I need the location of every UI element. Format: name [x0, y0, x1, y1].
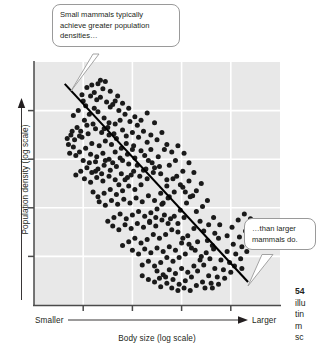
- y-axis-title: Population density (log scale): [21, 105, 30, 255]
- callout-larger-mammals: …than larger mammals do.: [244, 218, 316, 250]
- caption-number: 54: [295, 286, 325, 298]
- callout-top-line-1: Small mammals typically: [60, 10, 172, 21]
- x-axis-direction-arrow: [68, 316, 248, 323]
- caption-line-3: m: [295, 321, 325, 333]
- scatter-plot-canvas: [0, 0, 325, 347]
- callout-small-mammals: Small mammals typically achieve greater …: [52, 4, 180, 47]
- figure-root: Population density (log scale) Body size…: [0, 0, 325, 347]
- caption-line-2: tin: [295, 309, 325, 321]
- x-axis-high-label: Larger: [252, 316, 276, 325]
- figure-caption-partial: 54 illu tin m sc: [295, 286, 325, 344]
- caption-line-4: sc: [295, 332, 325, 344]
- x-axis-title: Body size (log scale): [33, 334, 281, 343]
- x-axis-low-label: Smaller: [35, 316, 63, 325]
- callout-right-line-1: …than larger: [252, 224, 308, 235]
- callout-top-line-2: achieve greater population: [60, 21, 172, 32]
- caption-line-1: illu: [295, 298, 325, 310]
- callout-top-line-3: densities…: [60, 31, 172, 42]
- callout-right-line-2: mammals do.: [252, 235, 308, 246]
